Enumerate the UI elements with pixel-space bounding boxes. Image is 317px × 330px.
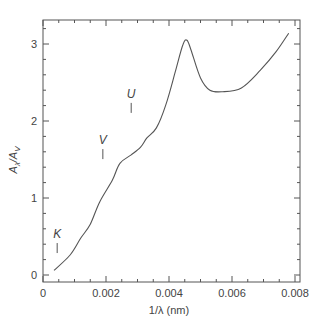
- x-tick-label: 0.002: [92, 287, 120, 299]
- band-annotations: KVU: [53, 87, 136, 253]
- y-tick-label: 3: [31, 38, 37, 50]
- band-label-v: V: [99, 133, 108, 147]
- band-label-k: K: [53, 227, 62, 241]
- x-tick-label: 0.008: [281, 287, 309, 299]
- extinction-curve: [54, 33, 289, 270]
- plot-border: [43, 20, 300, 282]
- axis-tick-labels: 00.0020.0040.0060.0080123: [31, 38, 309, 299]
- y-axis-title: Aλ/AV: [7, 146, 22, 175]
- plot-frame: [43, 20, 300, 282]
- extinction-chart: 00.0020.0040.0060.0080123 KVU 1/λ (nm) A…: [0, 0, 317, 330]
- axis-ticks: [43, 20, 300, 282]
- x-axis-title: 1/λ (nm): [149, 304, 189, 316]
- x-tick-label: 0: [40, 287, 46, 299]
- y-tick-label: 0: [31, 269, 37, 281]
- x-tick-label: 0.004: [155, 287, 183, 299]
- y-tick-label: 1: [31, 192, 37, 204]
- x-tick-label: 0.006: [218, 287, 246, 299]
- y-tick-label: 2: [31, 115, 37, 127]
- band-label-u: U: [127, 87, 136, 101]
